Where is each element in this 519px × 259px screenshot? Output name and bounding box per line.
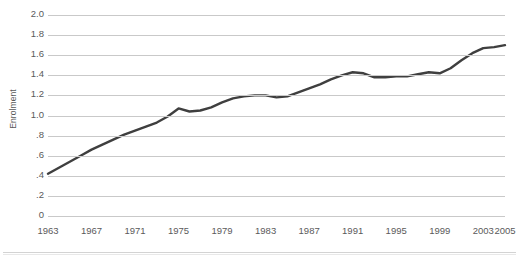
y-axis-tick-label: 0 <box>0 210 44 220</box>
gridline <box>48 116 505 117</box>
bottom-divider-shadow <box>3 254 516 255</box>
gridline <box>48 15 505 16</box>
plot-area <box>48 15 505 216</box>
gridline <box>48 196 505 197</box>
gridline <box>48 156 505 157</box>
gridline <box>48 176 505 177</box>
gridline <box>48 55 505 56</box>
enrolment-line-chart: Enrolment 2.01.81.61.41.21.0.8.6.4.20 19… <box>0 0 519 259</box>
y-axis-tick-label: .6 <box>0 150 44 160</box>
y-axis-tick-label: 2.0 <box>0 9 44 19</box>
y-axis-tick-labels: 2.01.81.61.41.21.0.8.6.4.20 <box>0 0 44 259</box>
x-axis-tick-label: 1995 <box>386 226 407 236</box>
x-axis-tick-labels: 1963196719711975197919831987199119951999… <box>0 226 519 242</box>
y-axis-tick-label: 1.4 <box>0 69 44 79</box>
gridline <box>48 35 505 36</box>
x-axis-tick-label: 1983 <box>255 226 276 236</box>
gridline <box>48 216 505 217</box>
x-axis-tick-label: 1967 <box>81 226 102 236</box>
gridline <box>48 95 505 96</box>
y-axis-tick-label: .2 <box>0 190 44 200</box>
x-axis-tick-label: 1971 <box>124 226 145 236</box>
x-axis-tick-label: 1979 <box>212 226 233 236</box>
y-axis-tick-label: .4 <box>0 170 44 180</box>
y-axis-tick-label: 1.6 <box>0 49 44 59</box>
x-axis-tick-label: 1987 <box>299 226 320 236</box>
x-axis-tick-label: 1991 <box>342 226 363 236</box>
y-axis-tick-label: .8 <box>0 130 44 140</box>
x-axis-tick-label: 2005 <box>494 226 515 236</box>
x-axis-tick-label: 1999 <box>429 226 450 236</box>
x-axis-tick-label: 1963 <box>37 226 58 236</box>
bottom-divider <box>3 252 516 253</box>
y-axis-tick-label: 1.0 <box>0 110 44 120</box>
x-axis-tick-label: 1975 <box>168 226 189 236</box>
gridline <box>48 136 505 137</box>
y-axis-tick-label: 1.2 <box>0 89 44 99</box>
gridline <box>48 75 505 76</box>
y-axis-tick-label: 1.8 <box>0 29 44 39</box>
x-axis-tick-label: 2003 <box>473 226 494 236</box>
